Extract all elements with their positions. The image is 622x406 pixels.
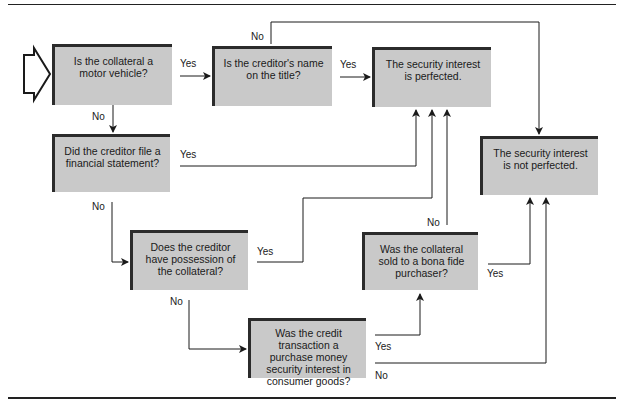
label-bonafide-yes: Yes xyxy=(487,268,503,279)
label-pmsi-yes: Yes xyxy=(375,341,391,352)
label-name-yes: Yes xyxy=(340,59,356,70)
label-name-no: No xyxy=(251,31,264,42)
label-possession-yes: Yes xyxy=(257,246,273,257)
node-not-perfected: The security interest is not perfected. xyxy=(480,136,598,195)
node-pmsi: Was the credit transaction a purchase mo… xyxy=(248,318,366,378)
node-bona-fide: Was the collateral sold to a bona fide p… xyxy=(362,232,478,290)
edge-possession-no xyxy=(189,300,246,349)
label-pmsi-no: No xyxy=(375,370,388,381)
label-financial-no: No xyxy=(92,201,105,212)
start-arrow-icon xyxy=(24,48,50,100)
node-financial-statement: Did the creditor file a financial statem… xyxy=(52,134,170,192)
node-perfected: The security interest is perfected. xyxy=(372,47,491,107)
label-financial-yes: Yes xyxy=(180,149,196,160)
edge-financial-yes xyxy=(180,110,416,166)
edge-bonafide-yes xyxy=(488,198,530,264)
node-motor-vehicle: Is the collateral a motor vehicle? xyxy=(52,44,172,105)
node-possession: Does the creditor have possession of the… xyxy=(130,230,248,290)
label-bonafide-no: No xyxy=(427,217,440,228)
edge-pmsi-yes xyxy=(375,294,420,335)
node-name-on-title: Is the creditor's name on the title? xyxy=(212,46,332,106)
label-motor-yes: Yes xyxy=(180,58,196,69)
label-motor-no: No xyxy=(92,111,105,122)
label-possession-no: No xyxy=(170,296,183,307)
edge-financial-no xyxy=(112,202,128,262)
